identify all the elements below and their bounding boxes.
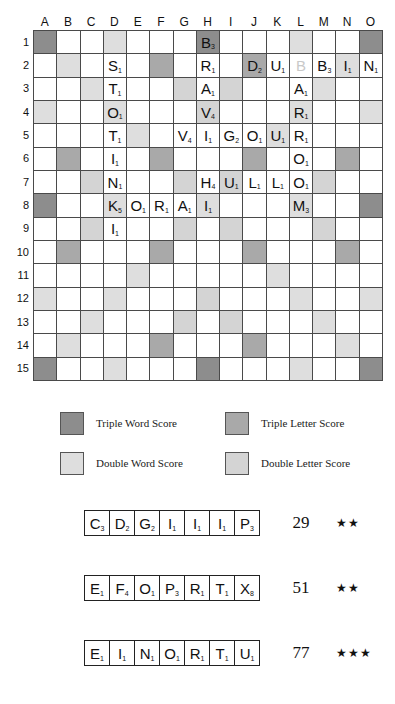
board-tile-i5[interactable]: G2 [220,124,242,146]
board-cell-j13[interactable] [243,311,266,334]
board-cell-f5[interactable] [150,124,173,147]
board-cell-o10[interactable] [360,241,383,264]
board-cell-h3[interactable]: A1 [197,78,220,101]
board-cell-i5[interactable]: G2 [220,124,243,147]
board-cell-l10[interactable] [290,241,313,264]
board-cell-o5[interactable] [360,124,383,147]
board-cell-i8[interactable] [220,194,243,217]
board-cell-k4[interactable] [267,101,290,124]
board-cell-g12[interactable] [174,288,197,311]
board-cell-b5[interactable] [57,124,80,147]
board-cell-f14[interactable] [150,334,173,357]
board-cell-j10[interactable] [243,241,266,264]
board-cell-f7[interactable] [150,171,173,194]
board-cell-c9[interactable] [81,218,104,241]
board-cell-l6[interactable]: O1 [290,148,313,171]
board-cell-g11[interactable] [174,264,197,287]
board-cell-e11[interactable] [127,264,150,287]
board-cell-m10[interactable] [313,241,336,264]
rack-tile[interactable]: E1 [85,641,110,665]
board-cell-m7[interactable] [313,171,336,194]
board-cell-a14[interactable] [34,334,57,357]
board-cell-b2[interactable] [57,54,80,77]
board-cell-d10[interactable] [104,241,127,264]
board-tile-d8[interactable]: K5 [104,194,126,216]
board-cell-a3[interactable] [34,78,57,101]
board-cell-o1[interactable] [360,31,383,54]
board-tile-l7[interactable]: O1 [290,171,312,193]
board-cell-f12[interactable] [150,288,173,311]
board-cell-m2[interactable]: B3 [313,54,336,77]
board-cell-d6[interactable]: I1 [104,148,127,171]
board-cell-l8[interactable]: M3 [290,194,313,217]
board-cell-b8[interactable] [57,194,80,217]
board-tile-d6[interactable]: I1 [104,148,126,170]
board-cell-m6[interactable] [313,148,336,171]
board-cell-h10[interactable] [197,241,220,264]
board-cell-o12[interactable] [360,288,383,311]
board-tile-d2[interactable]: S1 [104,54,126,76]
board-cell-d4[interactable]: O1 [104,101,127,124]
board-cell-c3[interactable] [81,78,104,101]
board-tile-f8[interactable]: R1 [150,194,172,216]
rack-tile[interactable]: U1 [235,641,259,665]
rack-tile[interactable]: R1 [185,576,210,600]
board-cell-l7[interactable]: O1 [290,171,313,194]
board-cell-k14[interactable] [267,334,290,357]
board-cell-k15[interactable] [267,358,290,381]
board-cell-m13[interactable] [313,311,336,334]
board-tile-g5[interactable]: V4 [174,124,196,146]
board-cell-c8[interactable] [81,194,104,217]
board-cell-e13[interactable] [127,311,150,334]
board-tile-k5[interactable]: U1 [267,124,289,146]
board-tile-h7[interactable]: H4 [197,171,219,193]
board-tile-d3[interactable]: T1 [104,78,126,100]
board-tile-d5[interactable]: T1 [104,124,126,146]
board-cell-f8[interactable]: R1 [150,194,173,217]
rack-tile[interactable]: N1 [135,641,160,665]
board-cell-l14[interactable] [290,334,313,357]
board-tile-h2[interactable]: R1 [197,54,219,76]
board-cell-k9[interactable] [267,218,290,241]
board-cell-o9[interactable] [360,218,383,241]
board-tile-l6[interactable]: O1 [290,148,312,170]
board-cell-a15[interactable] [34,358,57,381]
board-cell-m8[interactable] [313,194,336,217]
board-cell-l2[interactable]: B [290,54,313,77]
rack-tile[interactable]: P3 [235,511,259,535]
rack-tile[interactable]: R1 [185,641,210,665]
board-cell-n8[interactable] [336,194,359,217]
board-cell-h9[interactable] [197,218,220,241]
board-cell-d7[interactable]: N1 [104,171,127,194]
board-cell-k10[interactable] [267,241,290,264]
board-cell-a11[interactable] [34,264,57,287]
board-cell-h5[interactable]: I1 [197,124,220,147]
board-cell-f2[interactable] [150,54,173,77]
board-cell-o7[interactable] [360,171,383,194]
board-tile-e8[interactable]: O1 [127,194,149,216]
board-cell-h11[interactable] [197,264,220,287]
rack-tile[interactable]: C3 [85,511,110,535]
board-cell-j11[interactable] [243,264,266,287]
board-cell-j2[interactable]: D2 [243,54,266,77]
board-cell-m11[interactable] [313,264,336,287]
board-cell-d15[interactable] [104,358,127,381]
board-cell-f9[interactable] [150,218,173,241]
board-cell-c6[interactable] [81,148,104,171]
board-cell-e1[interactable] [127,31,150,54]
board-cell-h14[interactable] [197,334,220,357]
board-grid[interactable]: B3S1R1D2U1BB3I1N1T1A1A1O1V4R1T1V4I1G2O1U… [33,30,383,381]
board-cell-j9[interactable] [243,218,266,241]
board-cell-k13[interactable] [267,311,290,334]
board-cell-c12[interactable] [81,288,104,311]
board-cell-o4[interactable] [360,101,383,124]
board-tile-j7[interactable]: L1 [243,171,265,193]
board-cell-m15[interactable] [313,358,336,381]
board-cell-i13[interactable] [220,311,243,334]
board-cell-i1[interactable] [220,31,243,54]
board-cell-j7[interactable]: L1 [243,171,266,194]
rack-tile[interactable]: I1 [210,511,235,535]
board-cell-c5[interactable] [81,124,104,147]
board-cell-b6[interactable] [57,148,80,171]
board-cell-o8[interactable] [360,194,383,217]
